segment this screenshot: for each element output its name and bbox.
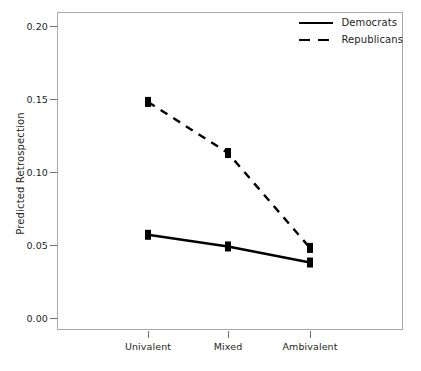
x-axis-tick [228, 331, 229, 338]
dashed-line-icon [299, 35, 333, 44]
y-axis-tick-label: 0.05 [6, 240, 48, 251]
y-axis-tick-label: 0.00 [6, 313, 48, 324]
y-axis-tick-label: 0.20 [6, 21, 48, 32]
x-axis-tick-label: Ambivalent [282, 341, 337, 352]
y-axis-tick [50, 26, 57, 27]
legend-item[interactable]: Republicans [299, 33, 403, 46]
y-axis-tick [50, 99, 57, 100]
legend-item[interactable]: Democrats [299, 16, 403, 29]
solid-line-icon [299, 18, 333, 27]
plot-area [57, 12, 403, 330]
y-axis-tick-label: 0.15 [6, 94, 48, 105]
chart-figure: Predicted Retrospection 0.200.150.100.05… [0, 0, 421, 371]
y-axis-tick [50, 172, 57, 173]
x-axis-tick [148, 331, 149, 338]
y-axis-labels: 0.200.150.100.050.00 [0, 0, 48, 371]
y-axis-tick [50, 245, 57, 246]
x-axis-tick-label: Univalent [125, 341, 171, 352]
legend-label: Republicans [341, 34, 403, 45]
x-axis-tick-label: Mixed [214, 341, 243, 352]
y-axis-tick [50, 318, 57, 319]
x-axis-tick [310, 331, 311, 338]
chart-legend: DemocratsRepublicans [299, 16, 403, 46]
y-axis-tick-label: 0.10 [6, 167, 48, 178]
legend-label: Democrats [341, 17, 396, 28]
